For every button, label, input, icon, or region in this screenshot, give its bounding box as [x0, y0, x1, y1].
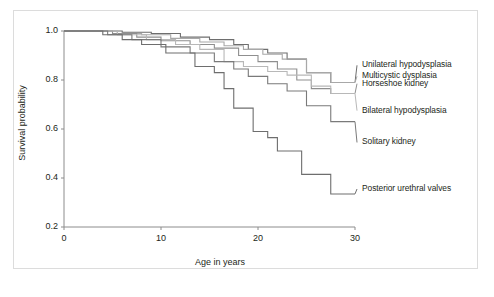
- x-tick-label: 30: [340, 233, 370, 243]
- series-line-3: [64, 31, 355, 93]
- y-tick-label: 0.6: [36, 123, 58, 133]
- x-tick-label: 20: [243, 233, 273, 243]
- series-label: Bilateral hypodysplasia: [362, 105, 447, 115]
- series-leader-3: [355, 93, 357, 110]
- series-label: Posterior urethral valves: [362, 183, 451, 193]
- figure-container: 0.20.40.60.81.0 0102030 Survival probabi…: [0, 0, 494, 297]
- series-label: Horseshoe kidney: [362, 78, 428, 88]
- series-group: [64, 31, 357, 194]
- series-leader-4: [355, 122, 357, 143]
- y-tick-label: 0.4: [36, 172, 58, 182]
- series-leader-5: [355, 189, 357, 194]
- x-axis-title: Age in years: [160, 257, 280, 267]
- y-tick-label: 0.2: [36, 221, 58, 231]
- series-line-5: [64, 31, 355, 194]
- y-tick-label: 0.8: [36, 74, 58, 84]
- series-label: Unilateral hypodysplasia: [362, 59, 452, 69]
- y-tick-label: 1.0: [36, 25, 58, 35]
- series-leader-2: [355, 84, 357, 94]
- chart-canvas: [0, 0, 494, 297]
- series-label: Solitary kidney: [362, 136, 416, 146]
- x-tick-label: 0: [49, 233, 79, 243]
- y-axis-title: Survival probability: [17, 73, 27, 173]
- x-tick-label: 10: [146, 233, 176, 243]
- axes-group: [61, 31, 355, 230]
